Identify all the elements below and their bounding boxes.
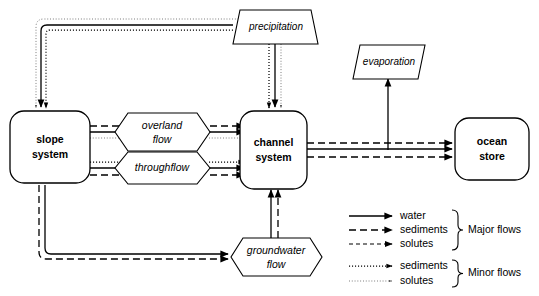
flow-line-precip-slope-solutes <box>36 19 247 108</box>
flow-channel-to-ocean <box>307 143 452 157</box>
flow-precipitation-to-slope <box>36 19 247 108</box>
hydrological-system-diagram: slope system channel system ocean store … <box>0 0 539 296</box>
ocean-store-label-line2: store <box>479 150 505 162</box>
legend-group-label-major: Major flows <box>468 223 521 235</box>
evaporation-label: evaporation <box>363 56 416 67</box>
store-channel-system[interactable]: channel system <box>240 111 307 189</box>
legend-label-solutes: solutes <box>400 237 433 249</box>
legend-minor-flows: sediments solutes Minor flows <box>349 259 521 287</box>
flow-line-precip-slope-water <box>41 25 233 107</box>
overland-flow-label-line2: flow <box>153 133 173 145</box>
overland-flow-label-line1: overland <box>142 119 183 131</box>
groundwater-flow-label-line2: flow <box>267 258 287 270</box>
legend: water sediments solutes Major flows sedi… <box>349 209 521 287</box>
slope-system-label-line2: system <box>32 148 68 160</box>
legend-brace-minor <box>452 260 463 287</box>
legend-major-flows: water sediments solutes Major flows <box>349 209 521 250</box>
flow-groundwater-to-channel <box>271 190 278 238</box>
flow-slope-to-groundwater <box>39 185 228 259</box>
process-overland-flow[interactable]: overland flow <box>115 113 210 151</box>
legend-label-water: water <box>399 209 426 221</box>
flow-overland-to-channel <box>207 126 244 138</box>
process-throughflow[interactable]: throughflow <box>115 152 210 184</box>
flow-line-slope-groundwater-solutes <box>39 185 228 259</box>
flow-precipitation-to-channel <box>269 44 281 108</box>
legend-label-minor-sediments: sediments <box>400 259 448 271</box>
groundwater-flow-label-line1: groundwater <box>247 244 306 256</box>
slope-system-label-line1: slope <box>36 133 64 145</box>
ocean-store-label-line1: ocean <box>477 135 507 147</box>
legend-label-minor-solutes: solutes <box>400 274 433 286</box>
precipitation-label: precipitation <box>248 21 303 32</box>
io-precipitation[interactable]: precipitation <box>233 10 318 44</box>
legend-group-label-minor: Minor flows <box>468 266 521 278</box>
legend-brace-major <box>452 210 463 250</box>
store-ocean[interactable]: ocean store <box>455 118 529 180</box>
channel-system-label-line2: system <box>255 151 291 163</box>
process-groundwater-flow[interactable]: groundwater flow <box>231 238 322 276</box>
channel-system-label-line1: channel <box>254 136 294 148</box>
flow-throughflow-to-channel <box>207 162 244 175</box>
throughflow-label-line1: throughflow <box>135 161 191 173</box>
io-evaporation[interactable]: evaporation <box>353 45 425 79</box>
diagram-canvas: slope system channel system ocean store … <box>0 0 539 296</box>
store-slope-system[interactable]: slope system <box>10 111 90 183</box>
legend-label-sediments: sediments <box>400 223 448 235</box>
flow-line-slope-groundwater-water <box>45 185 228 254</box>
flow-line-precip-slope-sediments <box>46 30 233 108</box>
